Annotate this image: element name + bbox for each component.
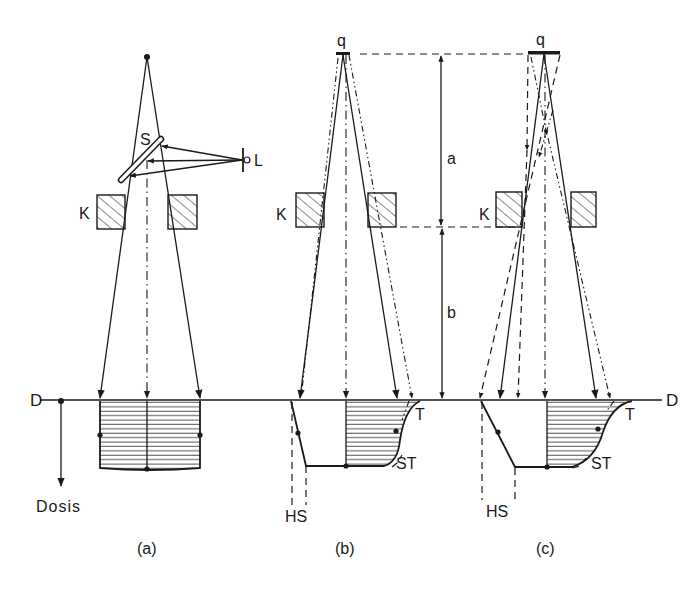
dose-axis	[58, 398, 64, 486]
collimator-block-left	[296, 193, 324, 227]
collimator-block-right	[168, 195, 197, 229]
dimension-b-label: b	[447, 304, 456, 321]
depth-label-right: D	[666, 391, 678, 410]
panel-c: q K T ST HS (c)	[479, 31, 635, 557]
collimator-block-right	[571, 192, 596, 227]
panel-a: S L K (a)	[79, 54, 263, 557]
transmission-label: T	[415, 406, 425, 423]
collimator-label: K	[276, 206, 287, 223]
caption-a: (a)	[137, 540, 157, 557]
dose-axis-label: Dosis	[36, 498, 81, 515]
panel-b: q K HS T ST (b)	[276, 32, 425, 557]
source-bar	[528, 51, 560, 55]
light-label: L	[254, 152, 263, 169]
caption-b: (b)	[335, 540, 355, 557]
dimension-a-label: a	[447, 150, 456, 167]
penumbra-label: HS	[486, 503, 508, 520]
scatter-label: ST	[396, 455, 417, 472]
collimator-block-left	[97, 195, 125, 229]
scatter-label: ST	[591, 455, 612, 472]
depth-label-left: D	[30, 391, 42, 410]
mirror-label: S	[140, 131, 151, 148]
source-label: q	[337, 32, 346, 49]
collimator-label: K	[479, 206, 490, 223]
source-bar	[336, 52, 350, 55]
radiation-field-diagram: D D Dosis S L K	[0, 0, 694, 592]
transmission-label: T	[625, 406, 635, 423]
collimator-block-right	[368, 193, 396, 227]
collimator-label: K	[79, 205, 90, 222]
collimator-block-left	[496, 192, 522, 227]
source-label: q	[536, 31, 545, 48]
penumbra-label: HS	[285, 508, 307, 525]
caption-c: (c)	[536, 540, 555, 557]
